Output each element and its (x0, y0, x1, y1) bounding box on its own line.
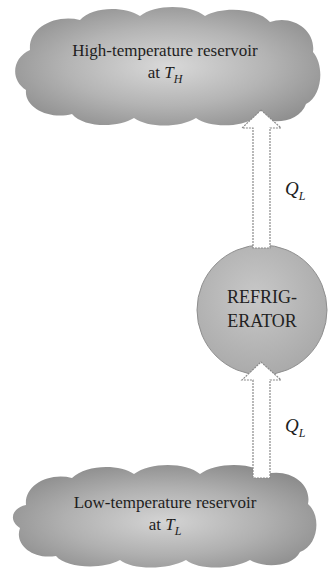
heat-arrow-to-refrigerator (242, 362, 281, 478)
high-reservoir-temperature: at TH (20, 62, 310, 85)
refrigerator-label: REFRIG- ERATOR (197, 285, 327, 333)
low-reservoir-label: Low-temperature reservoir at TL (20, 492, 310, 537)
high-reservoir-title: High-temperature reservoir (20, 40, 310, 62)
low-reservoir-temperature: at TL (20, 514, 310, 537)
heat-label-upper: QL (285, 178, 305, 200)
heat-arrow-to-high-reservoir (242, 110, 281, 248)
high-reservoir-label: High-temperature reservoir at TH (20, 40, 310, 85)
low-reservoir-title: Low-temperature reservoir (20, 492, 310, 514)
heat-label-lower: QL (285, 415, 305, 437)
